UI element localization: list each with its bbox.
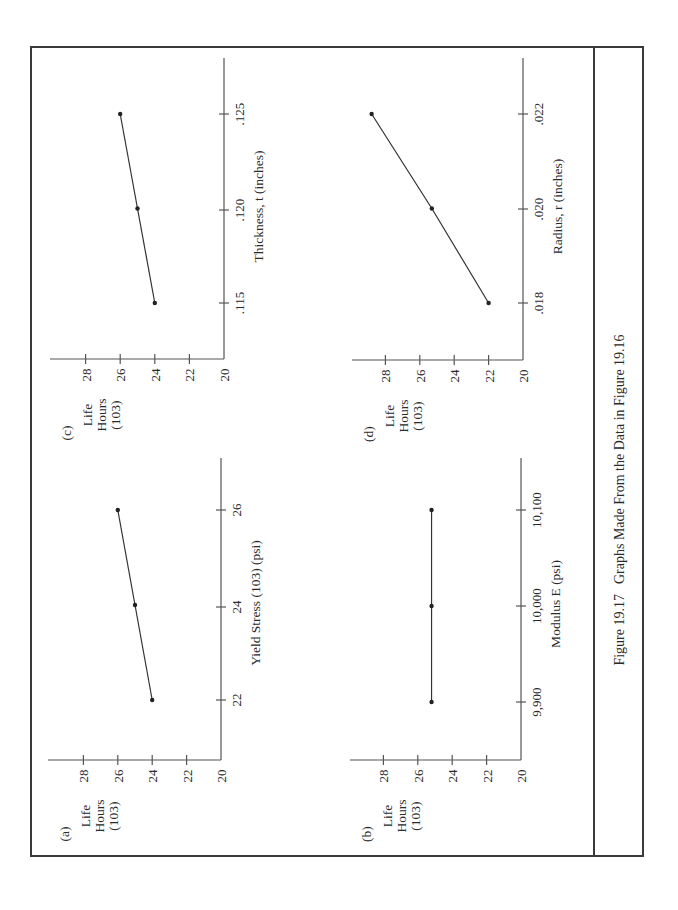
y-tick-label: 24	[447, 369, 462, 383]
chart-panel-c: 2022242628.115.120.125Thickness, t (inch…	[50, 58, 266, 440]
y-axis-title-line: (103)	[108, 400, 123, 429]
data-point	[429, 508, 433, 512]
panel-label: (d)	[361, 426, 376, 442]
x-tick-label: .022	[531, 103, 546, 126]
x-tick-label: 9,900	[529, 687, 544, 716]
y-axis-title-line: Life	[80, 404, 95, 427]
data-point	[153, 301, 157, 305]
x-tick-label: .018	[531, 292, 546, 315]
chart-panel-b: 20222426289,90010,00010,100Modulus E (ps…	[350, 458, 563, 842]
x-tick-label: .020	[531, 198, 546, 221]
figure-19-17: Figure 19.17Graphs Made From the Data in…	[0, 0, 678, 910]
x-axis-title: Modulus E (psi)	[548, 560, 563, 648]
y-axis-title-line: Life	[382, 405, 397, 428]
data-point	[116, 508, 120, 512]
y-tick-label: 24	[145, 769, 160, 783]
data-point	[429, 700, 433, 704]
y-tick-label: 26	[113, 368, 128, 382]
caption-text: Graphs Made From the Data in Figure 19.1…	[612, 334, 627, 584]
y-axis-title-line: (103)	[106, 801, 121, 830]
y-tick-label: 26	[111, 769, 126, 783]
data-point	[369, 112, 373, 116]
y-tick-label: 26	[411, 769, 426, 783]
x-tick-label: 10,000	[529, 588, 544, 624]
y-tick-label: 20	[516, 370, 531, 383]
x-axis-title: Thickness, t (inches)	[251, 150, 266, 262]
data-point	[118, 112, 122, 116]
y-tick-label: 20	[217, 369, 232, 382]
chart-panel-a: 2022242628222426Yield Stress (103) (psi)…	[48, 458, 263, 841]
figure-caption: Figure 19.17Graphs Made From the Data in…	[612, 334, 627, 665]
x-axis-title: Radius, r (inches)	[550, 159, 565, 255]
y-axis-title-line: Life	[380, 805, 395, 828]
panel-label: (c)	[59, 426, 74, 441]
y-tick-label: 22	[180, 770, 195, 783]
y-tick-label: 28	[378, 370, 393, 383]
y-axis-title-line: Hours	[396, 400, 411, 433]
x-tick-label: 26	[229, 503, 244, 517]
x-axis-title: Yield Stress (103) (psi)	[248, 540, 263, 666]
y-tick-label: 28	[76, 770, 91, 783]
y-axis-title-line: Life	[78, 805, 93, 828]
chart-panel-d: 2022242628.018.020.022Radius, r (inches)…	[352, 58, 565, 442]
x-tick-label: .115	[232, 292, 247, 314]
data-point	[150, 698, 154, 702]
y-axis-title-line: Hours	[92, 800, 107, 833]
data-point	[430, 206, 434, 210]
data-point	[135, 206, 139, 210]
data-point	[429, 604, 433, 608]
x-tick-label: 22	[229, 694, 244, 707]
y-tick-label: 24	[445, 769, 460, 783]
y-axis-title-line: (103)	[408, 801, 423, 830]
y-tick-label: 24	[148, 368, 163, 382]
y-axis-title-line: Hours	[94, 399, 109, 432]
y-tick-label: 22	[482, 370, 497, 383]
panels: 2022242628222426Yield Stress (103) (psi)…	[48, 58, 565, 842]
y-tick-label: 20	[214, 770, 229, 783]
x-tick-label: 10,100	[529, 492, 544, 528]
y-axis-title-line: Hours	[394, 800, 409, 833]
panel-label: (b)	[359, 826, 374, 842]
y-tick-label: 28	[79, 369, 94, 382]
panel-label: (a)	[57, 827, 72, 842]
data-point	[133, 603, 137, 607]
y-tick-label: 28	[376, 770, 391, 783]
x-tick-label: .125	[232, 103, 247, 126]
y-tick-label: 22	[480, 770, 495, 783]
data-point	[486, 301, 490, 305]
y-tick-label: 26	[413, 369, 428, 383]
caption-number: Figure 19.17	[612, 594, 627, 666]
y-axis-title-line: (103)	[410, 401, 425, 430]
y-tick-label: 22	[182, 369, 197, 382]
y-tick-label: 20	[514, 770, 529, 783]
x-tick-label: 24	[229, 600, 244, 614]
x-tick-label: .120	[232, 199, 247, 222]
